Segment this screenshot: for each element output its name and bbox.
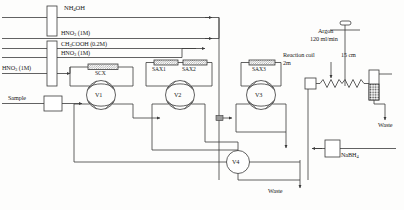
label-coil-length: 2m — [283, 60, 291, 66]
rotameter-float — [340, 21, 351, 25]
label-sample: Sample — [8, 95, 26, 101]
line-v1-port-lr — [113, 104, 134, 118]
label-ch3cooh: CH3COOH (0.2M) — [61, 41, 107, 48]
label-reaction-coil: Reaction coil — [283, 52, 315, 58]
label-sax1: SAX1 — [152, 67, 166, 73]
label-separator-length: 15 cm — [341, 52, 356, 58]
pump-box-nabh4 — [325, 140, 340, 157]
line-scx-right — [118, 67, 133, 86]
cartridge-scx — [88, 64, 118, 70]
label-sax2: SAX2 — [182, 67, 196, 73]
label-v3: V3 — [255, 92, 262, 98]
label-waste-bottom: Waste — [268, 188, 282, 194]
pump-box-reaction-coil — [305, 78, 316, 89]
line-ch3cooh-riser — [182, 49, 196, 58]
line-v3-port-ll — [236, 104, 250, 118]
line-sep-to-waste — [374, 100, 385, 104]
label-v2: V2 — [174, 92, 181, 98]
label-nh4oh: NH4OH — [64, 5, 85, 13]
label-argon-flow: 120 ml/min — [310, 36, 338, 42]
label-hno3-mid: HNO3 (1M) — [61, 50, 90, 57]
line-v1-port-ll — [74, 104, 90, 118]
cartridge-sax2 — [183, 60, 207, 65]
label-waste-right: Waste — [378, 122, 392, 128]
line-v2-port-lr — [192, 104, 206, 118]
separator-packing — [369, 84, 379, 100]
label-v4: V4 — [232, 159, 239, 165]
label-scx: SCX — [95, 71, 106, 77]
label-argon: Argon — [318, 28, 333, 34]
label-sax3: SAX3 — [252, 67, 266, 73]
coil-left — [320, 80, 342, 88]
line-sax3-left — [241, 63, 249, 87]
cartridge-sax1 — [154, 60, 178, 65]
tee-connector — [216, 116, 223, 121]
label-nabh4: NaBH4 — [341, 152, 359, 159]
diagram-canvas: NH4OH HNO3 (1M) CH3COOH (0.2M) HNO3 (1M)… — [0, 0, 404, 210]
label-hno3-top: HNO3 (1M) — [61, 30, 90, 37]
pump-box-sample — [44, 96, 62, 111]
pump-box-nh4oh — [47, 6, 57, 36]
line-scx-left — [70, 67, 88, 74]
cartridge-sax3 — [249, 60, 275, 65]
label-hno3-left: HNO3 (1M) — [2, 65, 31, 72]
line-v3-port-lr — [273, 104, 287, 118]
line-sax2-right — [207, 63, 212, 87]
line-sax3-right — [275, 63, 281, 87]
pump-box-acids — [47, 41, 57, 86]
line-v2-port-ll — [152, 104, 169, 118]
label-v1: V1 — [95, 92, 102, 98]
